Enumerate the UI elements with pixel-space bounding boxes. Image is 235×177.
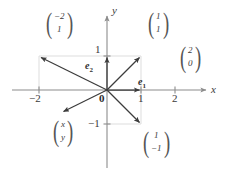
x-axis-label: x <box>211 84 216 95</box>
vector-arrow-neg2-1 <box>41 58 107 91</box>
vector-label-1-neg1-values: 1 −1 <box>151 129 162 155</box>
paren-right: ) <box>194 45 200 68</box>
vector-label-1-1-values: 1 1 <box>156 10 161 36</box>
paren-left: ( <box>180 45 186 68</box>
x-tick-label-2: 2 <box>172 93 178 104</box>
paren-right: ) <box>163 130 169 153</box>
vector-label-x-y-values: x y <box>61 118 65 144</box>
y-tick-label-1: 1 <box>95 44 101 55</box>
y-tick-label-neg1: −1 <box>88 118 100 129</box>
x-tick-label-neg2: −2 <box>29 93 41 104</box>
vector-label-1-neg1-bottom: −1 <box>151 142 162 155</box>
basis-label-e2-subscript: 2 <box>89 66 93 74</box>
diagram-canvas <box>0 0 235 177</box>
vector-label-neg2-1: ( −2 1 ) <box>44 10 75 36</box>
origin-label: 0 <box>99 93 105 104</box>
vector-diagram: x y 0 −2 1 2 1 −1 e1 e2 ( −2 1 ) ( 1 1 )… <box>0 0 235 177</box>
paren-left: ( <box>143 130 149 153</box>
paren-left: ( <box>53 119 59 142</box>
paren-right: ) <box>66 11 72 34</box>
basis-label-e1: e1 <box>138 77 146 90</box>
vector-label-x-y-top: x <box>61 118 65 131</box>
vector-label-1-neg1-top: 1 <box>154 129 159 142</box>
paren-left: ( <box>148 11 154 34</box>
paren-left: ( <box>46 11 52 34</box>
basis-label-e2: e2 <box>85 61 93 74</box>
vector-label-1-1-top: 1 <box>156 10 161 23</box>
vector-label-x-y: ( x y ) <box>51 118 75 144</box>
vector-label-2-0-values: 2 0 <box>188 44 193 70</box>
vector-label-x-y-bottom: y <box>61 131 65 144</box>
vector-label-2-0-top: 2 <box>188 44 193 57</box>
vector-label-2-0-bottom: 0 <box>188 57 193 70</box>
vector-arrow-1-neg1 <box>107 90 140 123</box>
vector-label-2-0: ( 2 0 ) <box>178 44 203 70</box>
vector-label-1-1-bottom: 1 <box>156 23 161 36</box>
vector-label-neg2-1-top: −2 <box>54 10 65 23</box>
vector-label-neg2-1-bottom: 1 <box>57 23 62 36</box>
vector-arrow-1-1 <box>107 58 140 91</box>
vector-label-neg2-1-values: −2 1 <box>54 10 65 36</box>
y-axis-label: y <box>112 5 117 16</box>
paren-right: ) <box>162 11 168 34</box>
basis-label-e1-subscript: 1 <box>142 82 146 90</box>
paren-right: ) <box>67 119 73 142</box>
x-tick-label-1: 1 <box>138 93 144 104</box>
vector-label-1-neg1: ( 1 −1 ) <box>141 129 172 155</box>
vector-label-1-1: ( 1 1 ) <box>146 10 171 36</box>
